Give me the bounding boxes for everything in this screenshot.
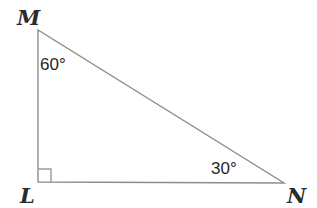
angle-label-at-n: 30° [211, 160, 237, 177]
geometry-figure: M L N 60° 30° [0, 0, 317, 208]
triangle-svg [0, 0, 317, 208]
angle-label-at-m: 60° [40, 56, 66, 73]
vertex-label-m: M [17, 7, 40, 28]
vertex-label-n: N [287, 185, 306, 206]
triangle-LMN [38, 30, 284, 183]
vertex-label-l: L [20, 185, 35, 206]
